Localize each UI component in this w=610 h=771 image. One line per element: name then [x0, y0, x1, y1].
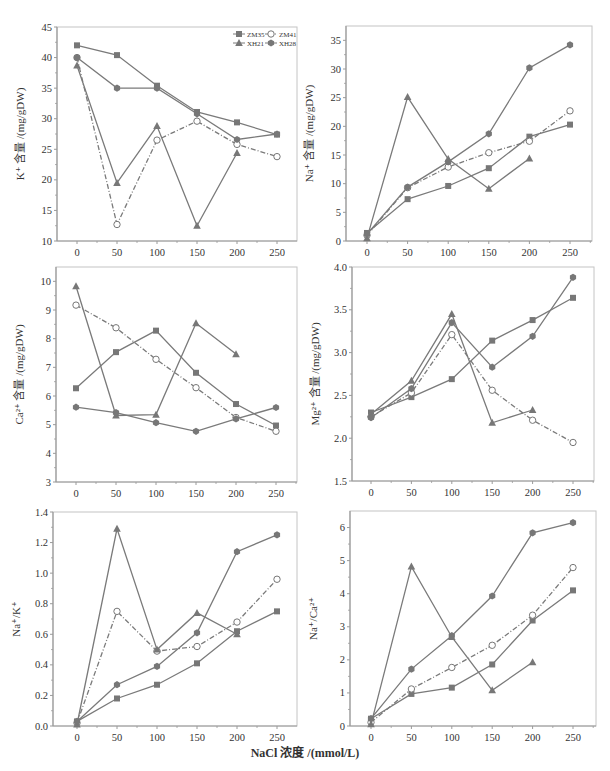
zm35-marker — [449, 376, 455, 382]
xh21-marker — [192, 319, 200, 326]
series-line — [77, 58, 277, 225]
zm41-marker — [529, 612, 535, 618]
y-tick-label: 5 — [336, 207, 341, 218]
xh21-marker — [233, 149, 241, 156]
y-tick-label: 10 — [331, 178, 342, 189]
series-zm41 — [74, 54, 280, 227]
zm41-marker — [489, 387, 495, 393]
y-tick-label: 0.0 — [35, 721, 48, 732]
y-tick-label: 0.6 — [35, 629, 48, 640]
chart-panel-ca-content: 345678910050100150200250Ca²⁺ 含量 /(mg/gDW… — [12, 267, 297, 499]
y-tick-label: 30 — [42, 113, 53, 124]
xh28-marker — [73, 404, 79, 411]
series-zm35 — [74, 42, 280, 137]
xh21-marker — [408, 563, 416, 570]
x-tick-label: 50 — [111, 488, 122, 499]
zm35-marker — [194, 660, 200, 666]
x-tick-label: 0 — [74, 247, 79, 258]
y-axis-label: Na⁺ 含量 /(mg/gDW) — [302, 84, 316, 182]
zm41-marker — [274, 576, 280, 582]
zm41-marker — [449, 664, 455, 670]
series-xh28 — [74, 531, 280, 725]
y-tick-label: 25 — [331, 92, 342, 103]
y-tick-label: 2.5 — [334, 390, 347, 401]
y-tick-label: 3 — [340, 621, 345, 632]
y-tick-label: 15 — [42, 205, 53, 216]
zm41-marker — [114, 221, 120, 227]
x-tick-label: 200 — [229, 732, 245, 743]
series-xh21 — [367, 310, 536, 426]
xh28-marker — [570, 519, 576, 526]
series-line — [367, 125, 570, 233]
y-tick-label: 25 — [42, 144, 53, 155]
series-zm41 — [74, 576, 280, 726]
zm35-marker — [233, 401, 239, 407]
xh21-marker — [485, 185, 493, 192]
y-tick-label: 15 — [331, 150, 342, 161]
x-tick-label: 150 — [484, 732, 500, 743]
series-xh21 — [72, 282, 240, 418]
chart-panel-na-k-ratio: 0.00.20.40.60.81.01.21.4050100150200250N… — [10, 507, 297, 744]
x-tick-label: 150 — [484, 487, 500, 498]
y-tick-label: 35 — [331, 35, 342, 46]
legend-label-xh28: XH28 — [279, 40, 297, 48]
y-tick-label: 0.8 — [35, 598, 48, 609]
legend-label-zm35: ZM35 — [247, 31, 265, 39]
y-tick-label: 20 — [42, 174, 53, 185]
y-tick-label: 5 — [46, 419, 51, 430]
y-tick-label: 4.0 — [334, 262, 347, 273]
y-tick-label: 2 — [340, 654, 345, 665]
y-tick-label: 3.5 — [334, 304, 347, 315]
y-tick-label: 1.0 — [35, 568, 48, 579]
zm41-marker — [489, 642, 495, 648]
zm35-marker — [154, 682, 160, 688]
series-zm41 — [364, 108, 573, 239]
y-tick-label: 1.2 — [35, 537, 48, 548]
x-tick-label: 150 — [189, 247, 205, 258]
x-tick-label: 250 — [565, 487, 581, 498]
xh21-marker — [193, 222, 201, 229]
series-zm35 — [74, 608, 280, 724]
x-tick-label: 0 — [364, 247, 369, 258]
series-line — [77, 611, 277, 721]
zm41-marker — [529, 417, 535, 423]
y-tick-label: 1.5 — [334, 476, 347, 487]
y-tick-label: 0.4 — [35, 659, 49, 670]
zm41-marker — [114, 608, 120, 614]
zm35-marker — [234, 119, 240, 125]
zm35-marker — [445, 183, 451, 189]
chart-panel-na-content: 05101520253035050100150200250Na⁺ 含量 /(mg… — [302, 26, 592, 258]
series-line — [367, 45, 570, 234]
series-xh21 — [73, 525, 241, 728]
zm41-marker — [73, 302, 79, 308]
legend-zm35-marker — [236, 31, 242, 37]
legend-zm41-marker — [268, 31, 274, 37]
x-tick-label: 200 — [228, 488, 244, 499]
xh21-marker — [193, 609, 201, 616]
series-line — [77, 45, 277, 134]
shared-x-axis-label: NaCl 浓度 /(mmol/L) — [0, 743, 610, 761]
xh28-marker — [153, 419, 159, 426]
plot-frame — [350, 511, 596, 726]
zm35-marker — [153, 328, 159, 334]
zm41-marker — [153, 356, 159, 362]
x-tick-label: 0 — [74, 732, 79, 743]
zm35-marker — [114, 52, 120, 58]
series-line — [371, 314, 533, 423]
zm35-marker — [570, 295, 576, 301]
y-tick-label: 6 — [46, 391, 51, 402]
zm41-marker — [273, 428, 279, 434]
legend-xh28-marker — [268, 39, 274, 46]
xh28-marker — [114, 85, 120, 92]
y-tick-label: 7 — [46, 362, 51, 373]
zm35-marker — [570, 587, 576, 593]
x-tick-label: 50 — [112, 732, 123, 743]
chart-panel-k-content: 1015202530354045050100150200250K⁺ 含量 /(m… — [13, 22, 297, 259]
y-tick-label: 1.4 — [35, 507, 49, 518]
y-tick-label: 0 — [336, 236, 341, 247]
xh28-marker — [273, 404, 279, 411]
zm35-marker — [274, 608, 280, 614]
y-axis-label: Na⁺/Ca²⁺ — [307, 597, 319, 640]
x-tick-label: 250 — [565, 732, 581, 743]
zm41-marker — [234, 619, 240, 625]
